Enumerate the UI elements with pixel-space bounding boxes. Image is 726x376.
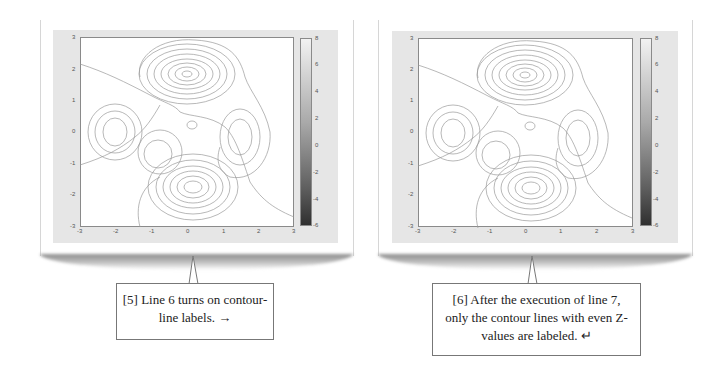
caption-line: line labels. → — [117, 309, 273, 327]
caption-line: [6] After the execution of line 7, — [433, 291, 640, 309]
caption-line: [5] Line 6 turns on contour- — [117, 291, 273, 309]
left-caption-callout: [5] Line 6 turns on contour- line labels… — [116, 283, 274, 340]
right-caption-callout: [6] After the execution of line 7, only … — [432, 283, 641, 356]
caption-line: values are labeled. ↵ — [433, 327, 640, 345]
caption-line: only the contour lines with even Z- — [433, 309, 640, 327]
